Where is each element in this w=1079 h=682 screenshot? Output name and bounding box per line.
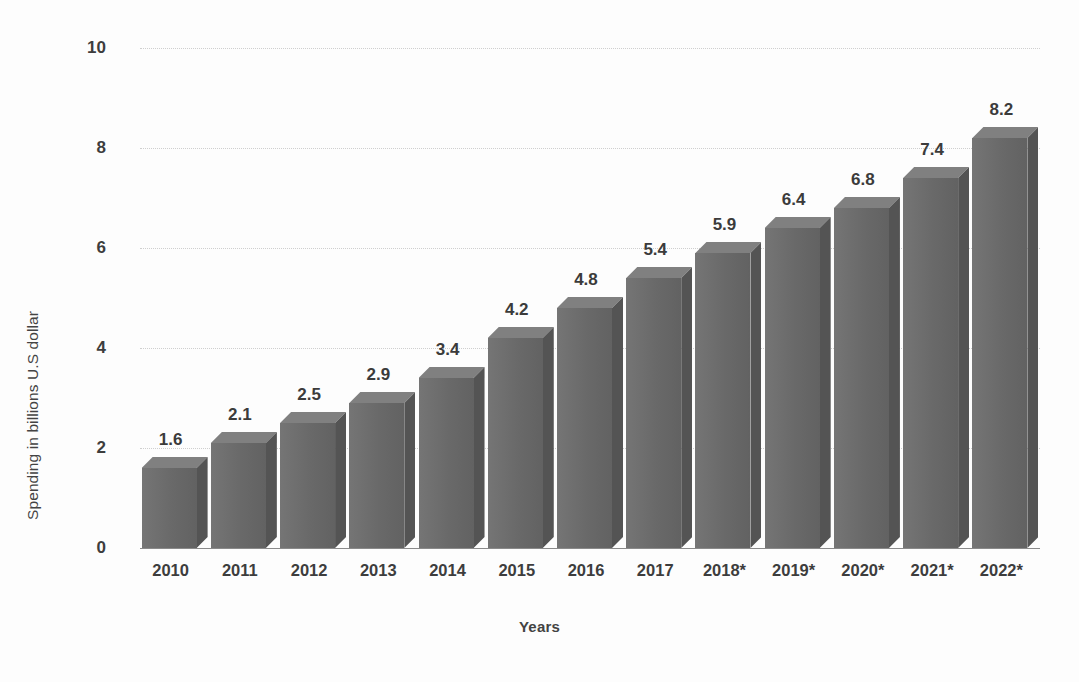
bar-top-face xyxy=(765,217,831,228)
bar-value-label: 2.1 xyxy=(205,406,274,423)
x-tick-label: 2020* xyxy=(828,562,897,579)
bar-value-label: 8.2 xyxy=(967,101,1036,118)
bar-front-face xyxy=(903,178,958,548)
bar-top-face xyxy=(557,297,623,308)
bar-value-label: 3.4 xyxy=(413,341,482,358)
bar-top-face xyxy=(142,457,208,468)
bar-side-face xyxy=(1027,127,1038,548)
bar-front-face xyxy=(695,253,750,548)
bar-top-face xyxy=(419,367,485,378)
bar-top-face xyxy=(626,267,692,278)
bar-side-face xyxy=(335,412,346,548)
x-tick-label: 2021* xyxy=(898,562,967,579)
bar-front-face xyxy=(280,423,335,548)
x-tick-label: 2010 xyxy=(136,562,205,579)
bar-value-label: 6.8 xyxy=(828,171,897,188)
bar-side-face xyxy=(958,167,969,548)
bar-side-face xyxy=(750,242,761,548)
bar[interactable] xyxy=(142,457,208,548)
bar[interactable] xyxy=(765,217,831,548)
bar[interactable] xyxy=(349,392,415,548)
bar-top-face xyxy=(280,412,346,423)
bar-value-label: 2.9 xyxy=(344,366,413,383)
y-tick-label: 6 xyxy=(66,239,106,256)
bar-front-face xyxy=(488,338,543,548)
bar-top-face xyxy=(349,392,415,403)
bar-front-face xyxy=(834,208,889,548)
y-axis-tick-labels: 0246810 xyxy=(60,0,106,682)
bar[interactable] xyxy=(834,197,900,548)
bar-value-label: 7.4 xyxy=(898,141,967,158)
bar-value-label: 4.2 xyxy=(482,301,551,318)
bar-side-face xyxy=(681,267,692,548)
y-tick-label: 0 xyxy=(66,539,106,556)
x-axis-title: Years xyxy=(0,618,1079,635)
bar-side-face xyxy=(266,432,277,548)
x-axis-tick-labels: 201020112012201320142015201620172018*201… xyxy=(140,562,1050,588)
bar[interactable] xyxy=(419,367,485,548)
x-tick-label: 2022* xyxy=(967,562,1036,579)
bar-front-face xyxy=(142,468,197,548)
bar[interactable] xyxy=(626,267,692,548)
bar-value-label: 5.9 xyxy=(690,216,759,233)
bar-side-face xyxy=(474,367,485,548)
bar-top-face xyxy=(211,432,277,443)
bar-front-face xyxy=(211,443,266,548)
x-tick-label: 2012 xyxy=(274,562,343,579)
bar-front-face xyxy=(557,308,612,548)
y-tick-label: 8 xyxy=(66,139,106,156)
bar-top-face xyxy=(903,167,969,178)
bar-value-label: 1.6 xyxy=(136,431,205,448)
bar-value-label: 5.4 xyxy=(621,241,690,258)
x-tick-label: 2019* xyxy=(759,562,828,579)
y-tick-label: 4 xyxy=(66,339,106,356)
bar[interactable] xyxy=(488,327,554,548)
x-tick-label: 2015 xyxy=(482,562,551,579)
bar-front-face xyxy=(972,138,1027,548)
x-tick-label: 2013 xyxy=(344,562,413,579)
bar-front-face xyxy=(349,403,404,548)
y-tick-label: 2 xyxy=(66,439,106,456)
bar-top-face xyxy=(695,242,761,253)
x-tick-label: 2017 xyxy=(621,562,690,579)
bar-side-face xyxy=(543,327,554,548)
bar-value-label: 6.4 xyxy=(759,191,828,208)
x-tick-label: 2014 xyxy=(413,562,482,579)
bar-front-face xyxy=(419,378,474,548)
bar[interactable] xyxy=(557,297,623,548)
bar[interactable] xyxy=(972,127,1038,548)
bar-chart: Spending in billions U.S dollar 0246810 … xyxy=(0,0,1079,682)
x-tick-label: 2016 xyxy=(551,562,620,579)
bar-side-face xyxy=(197,457,208,548)
x-tick-label: 2011 xyxy=(205,562,274,579)
x-tick-label: 2018* xyxy=(690,562,759,579)
bar-side-face xyxy=(404,392,415,548)
bar-top-face xyxy=(972,127,1038,138)
bar[interactable] xyxy=(903,167,969,548)
bar-value-label: 4.8 xyxy=(551,271,620,288)
bar-side-face xyxy=(612,297,623,548)
bar-side-face xyxy=(889,197,900,548)
bar-value-label: 2.5 xyxy=(274,386,343,403)
y-axis-title: Spending in billions U.S dollar xyxy=(24,20,50,520)
bar-front-face xyxy=(765,228,820,548)
bar-top-face xyxy=(488,327,554,338)
bar[interactable] xyxy=(280,412,346,548)
bar-front-face xyxy=(626,278,681,548)
y-tick-label: 10 xyxy=(66,39,106,56)
bar-top-face xyxy=(834,197,900,208)
bar[interactable] xyxy=(695,242,761,548)
bar[interactable] xyxy=(211,432,277,548)
bar-side-face xyxy=(820,217,831,548)
